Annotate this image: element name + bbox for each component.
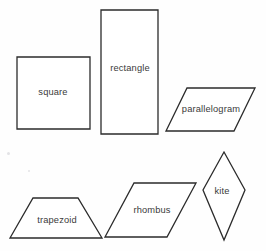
scan-speck [28, 170, 30, 172]
label-rhombus: rhombus [133, 206, 170, 215]
label-square: square [38, 88, 67, 97]
label-trapezoid: trapezoid [37, 216, 77, 225]
label-kite: kite [214, 187, 229, 196]
label-parallelogram: parallelogram [182, 105, 240, 114]
scan-speck [7, 152, 10, 155]
quadrilaterals-figure: squarerectangleparallelogramtrapezoidrho… [0, 0, 266, 251]
label-rectangle: rectangle [110, 64, 150, 73]
